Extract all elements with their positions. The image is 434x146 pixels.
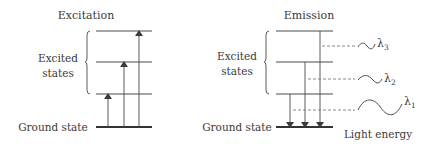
excitation-excited-label-line1: Excited [38, 52, 78, 64]
excitation-ground-label: Ground state [18, 121, 88, 133]
lambda3-label: λ3 [377, 37, 389, 52]
lambda1-wave-icon [358, 100, 402, 115]
emission-title: Emission [284, 9, 335, 22]
emission-ground-label: Ground state [202, 121, 272, 133]
energy-level-diagram: Excitation Excited states Ground state E… [0, 0, 434, 146]
emission-excited-label-line1: Excited [217, 50, 257, 62]
excitation-excited-label-line2: states [42, 67, 74, 79]
lambda1-label: λ1 [404, 95, 416, 110]
excitation-panel: Excitation Excited states Ground state [18, 9, 152, 133]
emission-panel: Emission Excited states Ground state Lig… [202, 9, 416, 140]
lambda3-wave-icon [358, 43, 375, 49]
emission-excited-label-line2: states [221, 65, 253, 77]
lambda2-label: λ2 [384, 72, 396, 87]
lambda2-wave-icon [358, 76, 382, 83]
excitation-brace-icon [85, 31, 90, 94]
excitation-title: Excitation [58, 9, 115, 22]
emission-brace-icon [264, 31, 269, 94]
light-energy-label: Light energy [344, 128, 412, 140]
